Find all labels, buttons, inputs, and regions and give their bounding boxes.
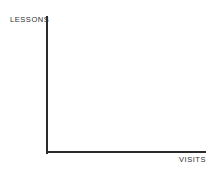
plot-area — [48, 16, 206, 151]
y-axis-line — [46, 16, 48, 154]
x-axis-label: VISITS — [179, 156, 206, 164]
x-axis-line — [46, 151, 206, 153]
y-axis-label: LESSONS — [10, 16, 49, 24]
chart-figure: LESSONS VISITS — [0, 0, 219, 173]
